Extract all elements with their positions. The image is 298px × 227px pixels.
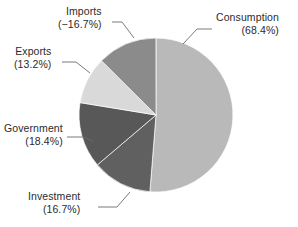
leader-line-imports <box>112 22 134 38</box>
pie-slice-consumption <box>150 38 233 192</box>
pie-label-imports: Imports (−16.7%) <box>58 5 102 30</box>
pie-label-exports-value: (13.2%) <box>14 58 51 71</box>
pie-label-consumption-name: Consumption <box>216 11 279 24</box>
pie-label-investment-name: Investment <box>28 190 80 203</box>
pie-label-imports-name: Imports <box>58 5 102 18</box>
pie-label-investment: Investment (16.7%) <box>28 190 80 215</box>
pie-label-exports-name: Exports <box>14 45 51 58</box>
pie-label-investment-value: (16.7%) <box>28 203 80 216</box>
pie-label-consumption-value: (68.4%) <box>216 24 279 37</box>
pie-label-consumption: Consumption (68.4%) <box>216 11 279 36</box>
leader-line-consumption <box>183 29 212 44</box>
pie-label-imports-value: (−16.7%) <box>58 18 102 31</box>
pie-label-government-value: (18.4%) <box>4 135 63 148</box>
pie-label-exports: Exports (13.2%) <box>14 45 51 70</box>
leader-line-investment <box>98 192 130 207</box>
leader-line-exports <box>62 62 90 73</box>
pie-chart: Consumption (68.4%) Imports (−16.7%) Exp… <box>0 0 298 227</box>
pie-slice-group <box>79 38 233 192</box>
pie-label-government: Government (18.4%) <box>4 122 63 147</box>
pie-label-government-name: Government <box>4 122 63 135</box>
